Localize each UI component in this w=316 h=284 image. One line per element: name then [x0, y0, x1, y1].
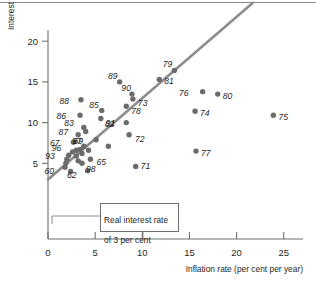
data-point-label-60: 60: [44, 166, 54, 176]
data-point-label-80: 80: [223, 91, 233, 101]
y-tick-label-10: 10: [27, 117, 38, 128]
data-point-78: [124, 104, 129, 109]
x-tick-label-0: 0: [45, 247, 50, 258]
data-point-label-88: 88: [59, 96, 69, 106]
y-axis-title: Interest rate (per cent per year): [6, 0, 16, 30]
data-point-label-75: 75: [278, 112, 288, 122]
y-tick-label-20: 20: [27, 36, 38, 47]
figure-container: 6062656769717273747576777879808182838586…: [0, 0, 316, 284]
callout-line-1: Real interest rate: [104, 216, 168, 225]
y-axis-ticks: [42, 41, 48, 163]
data-point-label-89: 89: [108, 71, 118, 81]
y-axis-tick-labels: 5101520: [27, 36, 38, 169]
data-point-label-71: 71: [141, 161, 151, 171]
data-point-77: [193, 148, 198, 153]
data-point-label-77: 77: [201, 148, 212, 158]
data-point-99: [86, 148, 91, 153]
callout-leader-line: [52, 216, 100, 224]
x-axis-tick-labels: 0510152025: [45, 247, 289, 258]
data-point-76: [200, 89, 205, 94]
x-axis-title: Inflation rate (per cent per year): [186, 264, 304, 274]
data-point-label-91: 91: [106, 118, 116, 128]
scatter-plot: 6062656769717273747576777879808182838586…: [0, 0, 316, 284]
data-point-69: [93, 137, 98, 142]
real-interest-rate-callout: Real interest rate of 3 per cent: [100, 203, 179, 232]
data-point-81: [157, 77, 162, 82]
x-axis-ticks: [48, 232, 284, 239]
data-point-label-85: 85: [89, 100, 99, 110]
data-point-label-78: 78: [131, 106, 141, 116]
data-point-70: [106, 144, 111, 149]
data-point-88: [78, 97, 83, 102]
data-point-92: [64, 157, 69, 162]
data-point-label-96: 96: [52, 143, 62, 153]
callout-line-2: of 3 per cent: [104, 236, 151, 245]
data-point-80: [215, 91, 220, 96]
data-point-label-74: 74: [200, 108, 210, 118]
data-point-74: [192, 109, 197, 114]
x-tick-label-15: 15: [184, 247, 195, 258]
data-point-label-79: 79: [163, 59, 173, 69]
data-point-75: [271, 113, 276, 118]
x-tick-label-25: 25: [278, 247, 289, 258]
y-tick-label-5: 5: [33, 158, 38, 169]
data-point-84: [83, 129, 88, 134]
y-tick-label-15: 15: [27, 76, 38, 87]
data-point-85: [99, 108, 104, 113]
data-point-label-62: 62: [67, 170, 77, 180]
x-tick-label-5: 5: [93, 247, 98, 258]
data-point-label-65: 65: [96, 157, 106, 167]
data-point-73: [130, 96, 135, 101]
data-point-98: [79, 161, 84, 166]
data-point-label-97: 97: [72, 136, 83, 146]
data-point-label-72: 72: [135, 134, 145, 144]
data-point-label-87: 87: [59, 127, 70, 137]
data-point-91: [98, 116, 103, 121]
data-point-72: [126, 132, 131, 137]
data-point-82: [124, 120, 129, 125]
x-tick-label-10: 10: [137, 247, 148, 258]
data-point-86: [77, 113, 82, 118]
data-point-label-98: 98: [86, 164, 96, 174]
data-point-label-76: 76: [179, 88, 189, 98]
x-tick-label-20: 20: [231, 247, 242, 258]
data-point-label-86: 86: [56, 111, 66, 121]
data-point-label-90: 90: [121, 83, 131, 93]
data-point-95: [74, 153, 79, 158]
data-point-71: [133, 164, 138, 169]
data-point-94: [70, 149, 75, 154]
data-point-label-81: 81: [164, 76, 174, 86]
data-point-79: [172, 68, 177, 73]
data-point-65: [88, 157, 93, 162]
